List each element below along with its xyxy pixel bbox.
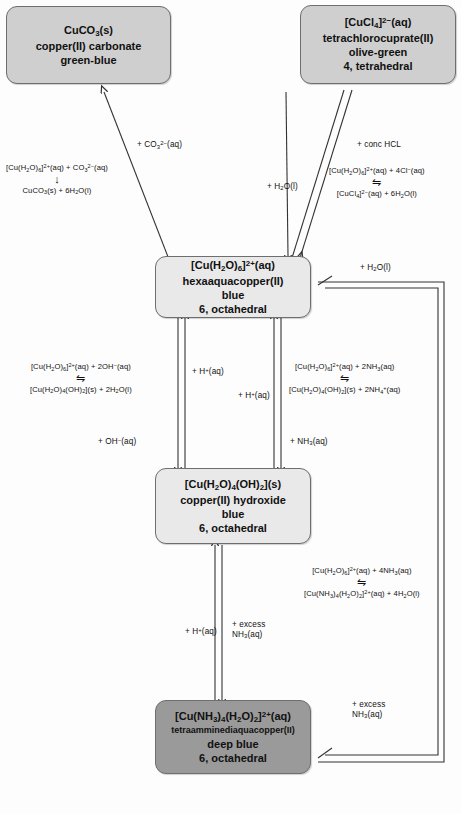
equation-excess-ammonia: [Cu(H2O)6]2+(aq) + 4NH3(aq) ⇋ [Cu(NH3)4(… (304, 566, 420, 598)
node-name: hexaaquacopper(II) (183, 274, 284, 288)
node-tetraamminediaquacopper[interactable]: [Cu(NH3)4(H2O)2]2+(aq) tetraamminediaqua… (155, 700, 311, 774)
node-colour: olive-green (349, 45, 408, 59)
equation-carbonate: [Cu(H2O)6]2+(aq) + CO32−(aq) ↓ CuCO3(s) … (6, 163, 108, 195)
node-geometry: 6, octahedral (199, 751, 267, 765)
node-tetrachlorocuprate[interactable]: [CuCl4]2−(aq) tetrachlorocuprate(II) oli… (300, 5, 456, 84)
label-excess-ammonia-outer: + excessNH3(aq) (352, 700, 412, 721)
node-geometry: 4, tetrahedral (343, 59, 412, 73)
label-acid-right: + H+(aq) (238, 391, 270, 400)
label-conc-hcl: + conc HCL (357, 140, 401, 149)
equation-reactants: [Cu(H2O)6]2+(aq) + 4NH3(aq) (304, 566, 420, 576)
equation-products: [Cu(H2O)4(OH)2](s) + 2H2O(l) (30, 385, 132, 394)
label-water-outer-loop: + H2O(l) (360, 263, 391, 272)
node-geometry: 6, octahedral (199, 302, 267, 316)
copper-chemistry-diagram: CuCO3(s) copper(II) carbonate green-blue… (0, 0, 461, 814)
equation-arrow: ↓ (6, 174, 108, 185)
arrow-hexaaqua-to-carbonate (104, 92, 170, 262)
label-acid-bottom: + H+(aq) (185, 627, 217, 636)
node-colour: green-blue (60, 53, 116, 67)
node-colour: deep blue (207, 737, 258, 751)
node-formula: CuCO3(s) (64, 23, 113, 39)
equation-arrow: ⇋ (30, 373, 132, 384)
node-copper-carbonate[interactable]: CuCO3(s) copper(II) carbonate green-blue (6, 6, 171, 84)
node-colour: blue (222, 507, 245, 521)
node-copper-hydroxide[interactable]: [Cu(H2O)4(OH)2](s) copper(II) hydroxide … (155, 468, 311, 544)
node-name: copper(II) hydroxide (180, 493, 286, 507)
equation-products: [Cu(NH3)4(H2O)2]2+(aq) + 4H2O(l) (304, 589, 420, 599)
equation-reactants: [Cu(H2O)6]2+(aq) + 2OH−(aq) (30, 362, 132, 372)
equation-products: [CuCl4]2−(aq) + 6H2O(l) (329, 189, 425, 199)
node-name: tetrachlorocuprate(II) (323, 31, 434, 45)
node-colour: blue (222, 288, 245, 302)
node-formula: [CuCl4]2−(aq) (345, 15, 412, 31)
equation-ammonia: [Cu(H2O)6]2+(aq) + 2NH3(aq) ⇋ [Cu(H2O)4(… (289, 362, 400, 394)
node-formula: [Cu(H2O)6]2+(aq) (191, 258, 275, 274)
equation-arrow: ⇋ (329, 177, 425, 188)
equation-products: [Cu(H2O)4(OH)2](s) + 2NH4+(aq) (289, 385, 400, 395)
arrow-hexaaqua-to-hydroxide-left (178, 318, 185, 470)
equation-arrow: ⇋ (304, 577, 420, 588)
node-formula: [Cu(H2O)4(OH)2](s) (185, 477, 281, 493)
equation-reactants: [Cu(H2O)6]2+(aq) + CO32−(aq) (6, 163, 108, 173)
label-water-from-cucl4: + H2O(l) (267, 182, 298, 191)
arrow-outer-loop-tetraammine-to-hexaaqua (318, 276, 444, 762)
label-ammonia: + NH3(aq) (290, 437, 328, 446)
arrow-hexaaqua-to-hydroxide-right (274, 318, 281, 470)
node-geometry: 6, octahedral (199, 521, 267, 535)
equation-hydroxide: [Cu(H2O)6]2+(aq) + 2OH−(aq) ⇋ [Cu(H2O)4(… (30, 362, 132, 394)
equation-arrow: ⇋ (289, 373, 400, 384)
node-name: tetraamminediaquacopper(II) (171, 725, 295, 737)
label-hydroxide: + OH−(aq) (98, 437, 136, 446)
node-name: copper(II) carbonate (36, 39, 142, 53)
equation-chloride: [Cu(H2O)6]2+(aq) + 4Cl−(aq) ⇋ [CuCl4]2−(… (329, 166, 425, 198)
equation-reactants: [Cu(H2O)6]2+(aq) + 4Cl−(aq) (329, 166, 425, 176)
node-hexaaquacopper[interactable]: [Cu(H2O)6]2+(aq) hexaaquacopper(II) blue… (155, 256, 311, 318)
node-formula: [Cu(NH3)4(H2O)2]2+(aq) (175, 709, 291, 725)
arrow-hydroxide-to-tetraammine (215, 545, 222, 700)
equation-products: CuCO3(s) + 6H2O(l) (6, 186, 108, 195)
label-excess-ammonia-inner: + excessNH3(aq) (232, 620, 288, 641)
label-acid-left: + H+(aq) (192, 367, 224, 376)
label-carbonate: + CO32−(aq) (137, 140, 182, 150)
reaction-arrows-layer (0, 0, 461, 814)
equation-reactants: [Cu(H2O)6]2+(aq) + 2NH3(aq) (289, 362, 400, 372)
